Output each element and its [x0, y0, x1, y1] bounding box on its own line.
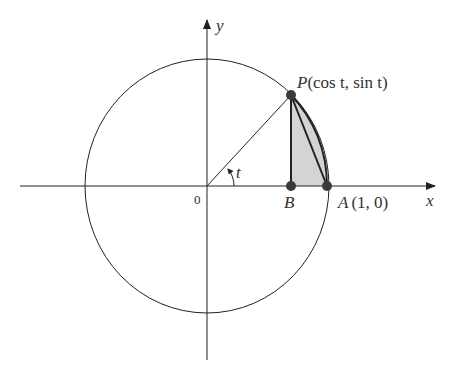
radius-OP [207, 95, 291, 186]
x-axis-label: x [425, 191, 434, 210]
angle-arc-t [228, 169, 234, 186]
point-A-name: A [337, 193, 349, 212]
point-P-name: P [296, 73, 307, 92]
point-B [286, 181, 296, 191]
y-axis-label: y [214, 16, 224, 35]
angle-label: t [236, 163, 242, 182]
point-A [322, 181, 332, 191]
point-A-coords: (1, 0) [351, 193, 388, 212]
point-A-label: A(1, 0) [337, 193, 388, 212]
point-P-coords: (cos t, sin t) [307, 73, 387, 92]
point-P-label: P(cos t, sin t) [296, 73, 388, 92]
point-P [286, 90, 296, 100]
point-B-label: B [284, 193, 295, 212]
unit-circle-figure: y x 0 t P(cos t, sin t) B A(1, 0) [0, 0, 451, 371]
origin-label: 0 [194, 192, 201, 207]
